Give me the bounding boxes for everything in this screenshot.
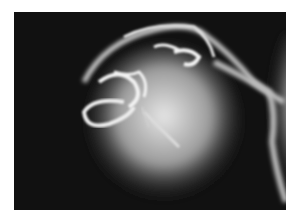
radiograph-svg xyxy=(14,12,286,210)
radiograph-image xyxy=(14,12,286,210)
